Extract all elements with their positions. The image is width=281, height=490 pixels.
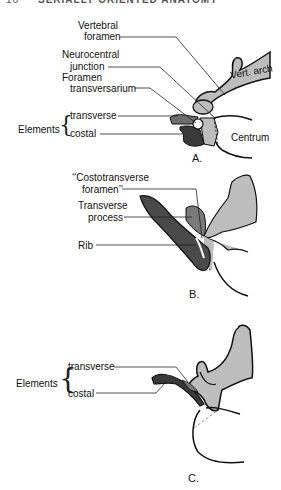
- label-elements-c: Elements: [16, 378, 58, 389]
- panel-label-b: B.: [189, 288, 199, 300]
- panel-label-a: A.: [192, 152, 202, 164]
- label-elements-a: Elements: [18, 124, 60, 135]
- label-transverse-process-line2: process: [88, 212, 123, 223]
- label-neurocentral-junction-line1: Neurocentral: [62, 49, 119, 60]
- label-costotransverse-foramen-line2: foramen’’: [82, 184, 123, 195]
- label-costotransverse-foramen-line1: ‘‘Costotransverse: [72, 172, 149, 183]
- label-foramen-transversarium-line2: transversarium: [70, 83, 136, 94]
- label-vertebral-foramen-line1: Vertebral: [78, 20, 118, 31]
- label-neurocentral-junction-line2: junction: [70, 61, 104, 72]
- panel-label-c: C.: [188, 472, 199, 484]
- panel-c-artwork: [96, 325, 253, 462]
- label-transverse-process-line1: Transverse: [78, 200, 128, 211]
- label-vertebral-foramen-line2: foramen: [84, 31, 121, 42]
- label-transverse-a: transverse: [70, 110, 117, 121]
- label-transverse-c: transverse: [68, 361, 115, 372]
- label-costal-c: costal: [68, 388, 94, 399]
- label-centrum: Centrum: [231, 132, 269, 143]
- label-costal-a: costal: [70, 128, 96, 139]
- label-rib: Rib: [78, 240, 93, 251]
- label-foramen-transversarium-line1: Foramen: [62, 72, 102, 83]
